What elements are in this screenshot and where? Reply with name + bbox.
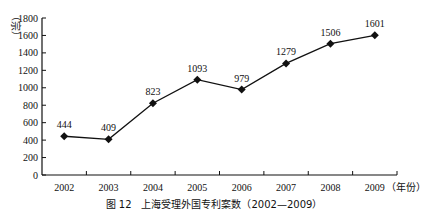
x-tick-label: 2005 — [187, 182, 207, 193]
line-chart: 0200400600800100012001400160018002002200… — [0, 0, 429, 211]
data-label: 409 — [101, 122, 116, 133]
diamond-marker — [60, 132, 68, 140]
y-axis-label: （宗） — [10, 11, 22, 41]
y-tick-label: 600 — [23, 117, 38, 128]
x-tick-label: 2003 — [99, 182, 119, 193]
x-tick-label: 2004 — [143, 182, 163, 193]
data-label: 444 — [57, 119, 72, 130]
x-tick-label: 2009 — [365, 182, 385, 193]
data-label: 1506 — [320, 27, 340, 38]
data-label: 823 — [145, 86, 160, 97]
x-axis-label: （年份） — [386, 181, 426, 193]
y-tick-label: 200 — [23, 152, 38, 163]
data-label: 1601 — [365, 18, 385, 29]
x-tick-label: 2006 — [232, 182, 252, 193]
x-tick-label: 2007 — [276, 182, 296, 193]
diamond-marker — [371, 31, 379, 39]
y-tick-label: 400 — [23, 135, 38, 146]
y-tick-label: 0 — [33, 170, 38, 181]
y-tick-label: 1400 — [18, 47, 38, 58]
x-tick-label: 2008 — [320, 182, 340, 193]
data-label: 1279 — [276, 46, 296, 57]
diamond-marker — [238, 86, 246, 94]
x-tick-label: 2002 — [54, 182, 74, 193]
data-label: 1093 — [187, 63, 207, 74]
data-label: 979 — [234, 73, 249, 84]
diamond-marker — [193, 76, 201, 84]
figure-caption: 图 12 上海受理外国专利案数（2002—2009） — [106, 198, 323, 210]
y-tick-label: 1200 — [18, 65, 38, 76]
diamond-marker — [282, 59, 290, 67]
y-tick-label: 800 — [23, 100, 38, 111]
diamond-marker — [326, 40, 334, 48]
y-tick-label: 1000 — [18, 82, 38, 93]
